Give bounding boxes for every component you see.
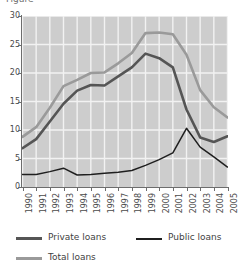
chart-legend: Private loansPublic loansTotal loans xyxy=(16,231,242,271)
clipped-title-text: Figure xyxy=(6,0,236,4)
y-axis-line xyxy=(21,15,22,188)
series-line-total-loans xyxy=(23,33,228,137)
x-tick-label: 2001 xyxy=(176,193,184,213)
legend-label: Total loans xyxy=(48,252,96,263)
x-tick-label: 1995 xyxy=(94,193,102,213)
y-tick-mark xyxy=(18,130,21,131)
legend-line-swatch xyxy=(136,238,162,240)
x-tick-label: 1991 xyxy=(40,193,48,213)
x-tick-label: 2004 xyxy=(217,193,225,213)
y-tick-mark xyxy=(18,73,21,74)
x-tick-mark xyxy=(91,188,92,191)
x-tick-label: 1999 xyxy=(149,193,157,213)
y-axis-ticks: 051015202530 xyxy=(0,0,20,200)
x-tick-mark xyxy=(64,188,65,191)
x-tick-mark xyxy=(187,188,188,191)
x-tick-mark xyxy=(105,188,106,191)
x-tick-mark xyxy=(23,188,24,191)
x-tick-label: 1996 xyxy=(108,193,116,213)
x-tick-mark xyxy=(36,188,37,191)
x-tick-mark xyxy=(173,188,174,191)
legend-label: Private loans xyxy=(48,232,106,243)
x-tick-label: 2005 xyxy=(231,193,239,213)
x-tick-mark xyxy=(159,188,160,191)
x-tick-label: 2002 xyxy=(190,193,198,213)
y-tick-mark xyxy=(18,45,21,46)
x-tick-mark xyxy=(132,188,133,191)
legend-line-swatch xyxy=(16,257,42,260)
x-tick-label: 1997 xyxy=(122,193,130,213)
x-tick-mark xyxy=(214,188,215,191)
line-chart-figure: Figure 051015202530 19901991199219931994… xyxy=(0,0,245,273)
x-tick-mark xyxy=(200,188,201,191)
y-tick-mark xyxy=(18,159,21,160)
x-axis-ticks: 1990199119921993199419951996199719981999… xyxy=(22,188,230,228)
y-tick-mark xyxy=(18,16,21,17)
plot-area xyxy=(22,16,228,187)
x-tick-label: 2000 xyxy=(163,193,171,213)
x-tick-label: 2003 xyxy=(204,193,212,213)
legend-line-swatch xyxy=(16,237,42,240)
x-tick-label: 1993 xyxy=(67,193,75,213)
series-line-public-loans xyxy=(23,128,228,175)
x-tick-mark xyxy=(228,188,229,191)
x-tick-label: 1990 xyxy=(26,193,34,213)
x-tick-mark xyxy=(77,188,78,191)
x-tick-label: 1994 xyxy=(81,193,89,213)
x-tick-mark xyxy=(50,188,51,191)
x-tick-mark xyxy=(146,188,147,191)
legend-label: Public loans xyxy=(168,232,221,243)
x-tick-label: 1998 xyxy=(135,193,143,213)
series-paths-group xyxy=(23,33,228,176)
y-tick-mark xyxy=(18,102,21,103)
x-tick-mark xyxy=(118,188,119,191)
plot-svg xyxy=(22,16,228,187)
x-tick-label: 1992 xyxy=(53,193,61,213)
y-tick-mark xyxy=(18,187,21,188)
